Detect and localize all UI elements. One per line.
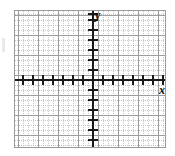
left-edge-artifact: [2, 38, 5, 52]
y-axis-label: y: [95, 9, 100, 21]
x-axis-line: [15, 79, 165, 81]
plot-area: [14, 10, 166, 148]
y-axis-line: [92, 11, 94, 147]
x-axis-label: x: [159, 84, 165, 96]
coordinate-grid-figure: y x: [0, 0, 175, 156]
